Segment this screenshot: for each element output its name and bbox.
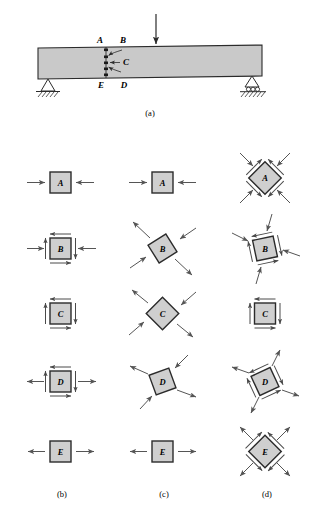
caption-a: (a) (145, 108, 155, 118)
element-d-E: E (240, 427, 290, 476)
element-d-B: B (232, 214, 300, 284)
element-label: B (57, 244, 64, 254)
figure-root: A B C D E (0, 0, 316, 520)
beam-body (38, 45, 262, 79)
panel-a-beam: A B C D E (36, 14, 266, 118)
element-c-C: C (129, 290, 196, 337)
left-pin-support (36, 79, 60, 97)
element-label: D (261, 377, 268, 387)
element-label: B (159, 244, 166, 254)
element-label: C (262, 309, 268, 319)
beam-point-label-B: B (119, 35, 126, 45)
element-label: D (56, 377, 63, 387)
element-label: A (261, 173, 268, 183)
element-b-C: C (46, 299, 76, 328)
element-b-E: E (28, 441, 94, 462)
element-label: B (261, 244, 268, 254)
caption-d: (d) (262, 489, 272, 499)
caption-c: (c) (159, 489, 169, 499)
element-label: A (159, 178, 166, 188)
element-c-E: E (130, 441, 196, 462)
element-b-A: A (27, 172, 94, 193)
element-label: E (261, 447, 268, 457)
element-label: E (57, 447, 64, 457)
element-b-B: B (27, 234, 96, 263)
element-label: C (58, 309, 64, 319)
beam-point-label-E: E (97, 80, 104, 90)
right-roller-support (240, 76, 266, 97)
element-c-B: B (130, 222, 196, 275)
beam-point-label-A: A (96, 35, 103, 45)
element-d-D: D (232, 350, 299, 413)
element-label: A (57, 178, 64, 188)
element-d-A: A (240, 153, 290, 203)
element-c-D: D (130, 355, 196, 409)
element-label: E (159, 447, 166, 457)
element-b-D: D (27, 367, 96, 396)
element-label: D (158, 377, 165, 387)
beam-point-label-D: D (120, 80, 128, 90)
figure-svg: A B C D E (0, 0, 316, 520)
caption-b: (b) (57, 489, 67, 499)
element-label: C (160, 309, 166, 319)
element-d-C: C (250, 299, 280, 328)
beam-point-label-C: C (123, 57, 130, 67)
element-c-A: A (129, 172, 196, 193)
